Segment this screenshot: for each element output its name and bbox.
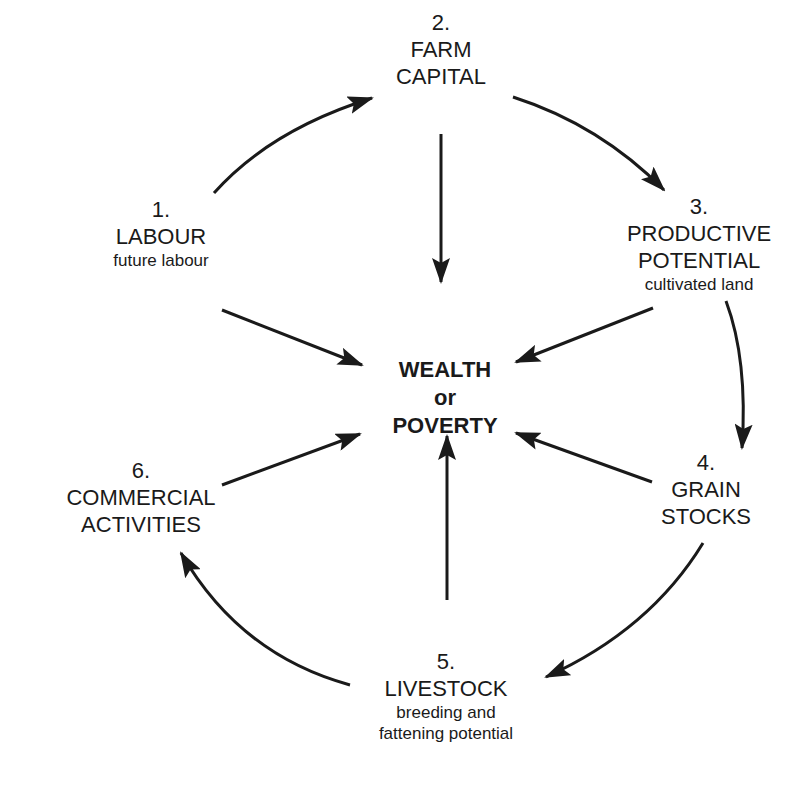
node-number: 6.: [66, 457, 215, 484]
node-number: 5.: [379, 648, 513, 675]
arrow-commercial-to-center: [222, 434, 360, 485]
node-title-line-1: COMMERCIAL: [66, 484, 215, 511]
node-title-line-2: CAPITAL: [396, 63, 486, 90]
arrow-labour-to-center: [222, 310, 362, 365]
node-title-line-2: POTENTIAL: [627, 247, 771, 274]
node-labour: 1. LABOUR future labour: [113, 196, 208, 271]
node-subtitle: cultivated land: [627, 274, 771, 295]
node-subtitle-line-1: breeding and: [379, 702, 513, 723]
arrow-productive-to-grain: [726, 301, 743, 448]
node-title: LABOUR: [113, 223, 208, 250]
arrow-labour-to-farm-capital: [214, 98, 372, 193]
center-line-1: WEALTH: [392, 356, 497, 384]
node-title-line-2: STOCKS: [661, 503, 751, 530]
center-line-3: POVERTY: [392, 412, 497, 440]
node-title: LIVESTOCK: [379, 675, 513, 702]
arrow-productive-to-center: [516, 308, 653, 362]
node-subtitle-line-2: fattening potential: [379, 723, 513, 744]
arrow-grain-to-center: [516, 433, 652, 482]
arrow-grain-to-livestock: [546, 543, 703, 677]
node-productive-potential: 3. PRODUCTIVE POTENTIAL cultivated land: [627, 193, 771, 295]
node-number: 4.: [661, 449, 751, 476]
center-line-2: or: [392, 384, 497, 412]
node-number: 2.: [396, 9, 486, 36]
node-title-line-2: ACTIVITIES: [66, 511, 215, 538]
node-title-line-1: PRODUCTIVE: [627, 220, 771, 247]
node-farm-capital: 2. FARM CAPITAL: [396, 9, 486, 90]
node-number: 1.: [113, 196, 208, 223]
node-grain-stocks: 4. GRAIN STOCKS: [661, 449, 751, 530]
node-title-line-1: GRAIN: [661, 476, 751, 503]
node-title-line-1: FARM: [396, 36, 486, 63]
center-node-wealth-or-poverty: WEALTH or POVERTY: [392, 356, 497, 440]
arrow-livestock-to-commercial: [181, 553, 350, 685]
node-livestock: 5. LIVESTOCK breeding and fattening pote…: [379, 648, 513, 744]
node-subtitle: future labour: [113, 250, 208, 271]
node-number: 3.: [627, 193, 771, 220]
arrow-farm-capital-to-productive: [513, 97, 664, 190]
node-commercial-activities: 6. COMMERCIAL ACTIVITIES: [66, 457, 215, 538]
